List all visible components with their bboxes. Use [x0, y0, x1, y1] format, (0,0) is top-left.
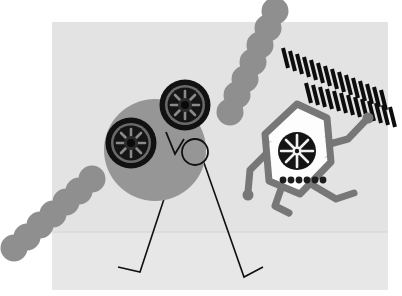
tooth-dot [312, 177, 319, 184]
tooth-dot [280, 177, 287, 184]
right-eye-pupil [181, 101, 189, 109]
left-hand-ball [243, 190, 254, 201]
tooth-dot [320, 177, 327, 184]
tooth-dot [288, 177, 295, 184]
scene-illustration [0, 0, 402, 296]
tooth-dot [304, 177, 311, 184]
artboard [0, 0, 402, 296]
left-eye-gear [106, 118, 157, 169]
face-gear-hub-core [295, 149, 299, 153]
left-eye-pupil [127, 139, 135, 147]
chain-circle [79, 166, 106, 193]
right-hand-ball [363, 113, 374, 124]
face-gear [278, 132, 316, 170]
tooth-dot [296, 177, 303, 184]
right-eye-gear [160, 80, 211, 131]
background-panel [52, 22, 388, 290]
